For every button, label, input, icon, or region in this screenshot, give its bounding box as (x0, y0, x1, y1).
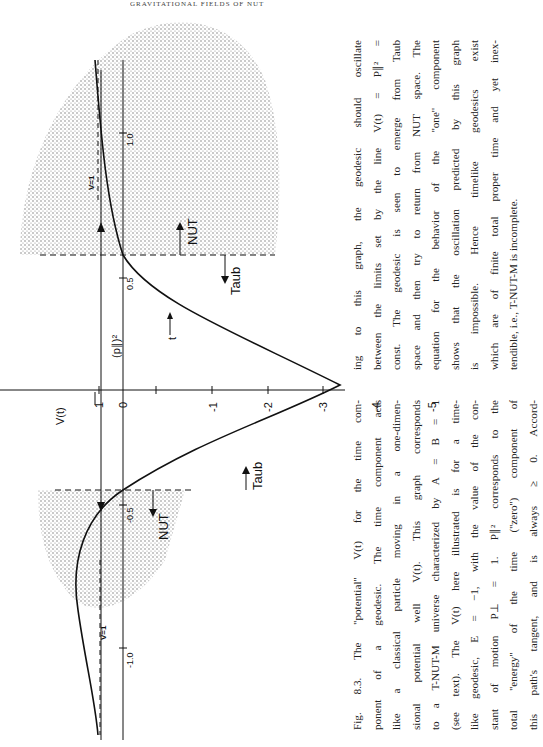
caption-line: this path's tangent, and is always ≥ 0. … (524, 400, 543, 730)
svg-text:Taub: Taub (250, 462, 265, 490)
momentum-label: (p∥)² (110, 335, 123, 358)
t-axis-label: t (166, 337, 178, 340)
nut-region-lower (38, 490, 185, 608)
svg-text:-1.0: -1.0 (125, 652, 135, 668)
svg-text:-0.5: -0.5 (125, 507, 135, 523)
svg-text:1.0: 1.0 (125, 133, 135, 146)
svg-text:0: 0 (117, 402, 129, 408)
svg-text:-3: -3 (317, 402, 329, 412)
svg-text:-1: -1 (207, 402, 219, 412)
svg-text:V=1: V=1 (99, 625, 108, 640)
svg-text:-2: -2 (262, 402, 274, 412)
v-axis-label: V(t) (54, 407, 66, 425)
caption-line: like a classical particle moving in a on… (387, 400, 407, 730)
caption-line: Fig. 8.3. The ''potential'' V(t) for the… (348, 400, 368, 730)
svg-text:NUT: NUT (156, 513, 171, 540)
caption-line: stant of motion P⊥ = 1. P∥² corresponds … (485, 400, 505, 730)
caption-line: like geodesic, E = −1, with the value of… (465, 400, 485, 730)
caption-line: ponent of a geodesic. The time component… (368, 400, 388, 730)
caption-line: (see text). The V(t) here illustrated is… (446, 400, 466, 730)
svg-text:NUT: NUT (185, 218, 200, 245)
figure-caption: Fig. 8.3. The ''potential'' V(t) for the… (348, 400, 543, 730)
svg-text:Taub: Taub (228, 267, 243, 295)
caption-line: total ''energy'' of the time (''zero'') … (504, 400, 524, 730)
continuation-text: ing to this graph, the geodesic should o… (348, 40, 524, 370)
caption-line: sional potential well V(t). This graph c… (407, 400, 427, 730)
svg-text:V=1: V=1 (87, 175, 96, 190)
svg-text:0.5: 0.5 (125, 277, 135, 290)
nut-region-upper (20, 22, 279, 255)
svg-text:1: 1 (93, 402, 105, 408)
caption-line: to a T-NUT-M universe characterized by A… (426, 400, 446, 730)
